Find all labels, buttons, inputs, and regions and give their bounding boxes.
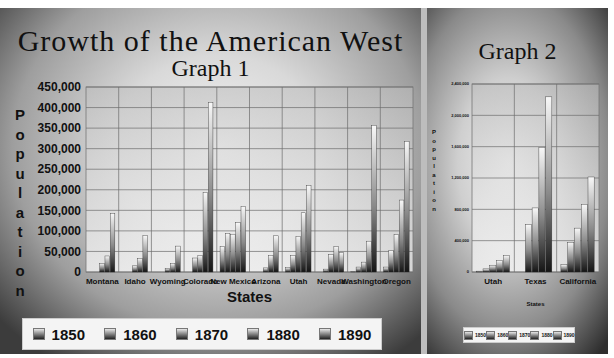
bar xyxy=(306,185,311,272)
bar xyxy=(110,213,115,272)
y-tick-label: 50,000 xyxy=(44,245,81,259)
x-category-label: Washington xyxy=(341,277,387,286)
y-tick-label: 1,600,000 xyxy=(451,144,470,149)
bar xyxy=(339,253,344,272)
legend-item: 1890 xyxy=(319,326,371,343)
legend-swatch-icon xyxy=(553,331,562,340)
bar xyxy=(138,258,143,272)
legend-item: 1860 xyxy=(104,326,156,343)
y-axis-title-letter: a xyxy=(432,172,436,178)
bar xyxy=(170,263,175,272)
y-axis-title-letter: l xyxy=(18,184,22,201)
y-axis-title-letter: p xyxy=(15,145,24,162)
legend-item: 1860 xyxy=(486,331,508,340)
bar xyxy=(389,251,394,272)
bar xyxy=(220,247,225,272)
bar xyxy=(198,256,203,272)
legend-label: 1890 xyxy=(564,332,575,338)
bar xyxy=(263,268,268,272)
legend-item: 1880 xyxy=(530,331,552,340)
y-tick-label: 0 xyxy=(74,265,81,279)
y-axis-title-letter: u xyxy=(15,165,24,182)
bar xyxy=(356,267,361,272)
x-category-label: Idaho xyxy=(124,277,145,286)
graph2-legend: 18501860187018801890 xyxy=(463,327,575,343)
y-tick-label: 2,400,000 xyxy=(451,81,470,86)
y-axis-title-letter: P xyxy=(432,129,436,135)
y-axis-title-letter: o xyxy=(15,126,24,143)
bar xyxy=(301,213,306,272)
y-tick-label: 200,000 xyxy=(38,183,82,197)
x-axis-title: States xyxy=(526,301,545,307)
bar xyxy=(225,233,230,272)
x-category-label: Utah xyxy=(290,277,308,286)
legend-label: 1890 xyxy=(338,326,371,343)
legend-label: 1860 xyxy=(123,326,156,343)
x-category-label: New Mexico xyxy=(210,277,256,286)
y-axis-title-letter: t xyxy=(433,180,435,186)
bar xyxy=(476,271,482,272)
bar xyxy=(561,265,567,272)
legend-swatch-icon xyxy=(247,328,259,340)
y-axis-title-letter: l xyxy=(433,163,435,169)
legend-label: 1870 xyxy=(519,332,530,338)
y-axis-title-letter: n xyxy=(432,206,436,212)
bar xyxy=(399,200,404,272)
y-axis-title-letter: n xyxy=(15,282,24,299)
bar xyxy=(231,234,236,272)
y-axis-title-letter: t xyxy=(18,223,23,240)
bar xyxy=(490,265,496,272)
bar xyxy=(483,269,489,272)
bar xyxy=(574,228,580,272)
graph2-plot: 0400,000800,0001,200,0001,600,0002,000,0… xyxy=(427,8,608,354)
graph1-plot: 050,000100,000150,000200,000250,000300,0… xyxy=(0,8,421,354)
bar xyxy=(323,269,328,272)
bar xyxy=(285,267,290,272)
y-tick-label: 2,000,000 xyxy=(451,113,470,118)
legend-swatch-icon xyxy=(464,331,473,340)
legend-item: 1850 xyxy=(33,326,85,343)
bar xyxy=(367,241,372,272)
legend-item: 1870 xyxy=(508,331,530,340)
bar xyxy=(100,263,105,272)
bar xyxy=(497,261,503,272)
y-axis-title-letter: o xyxy=(432,197,436,203)
bar xyxy=(503,255,509,272)
bar xyxy=(176,246,181,272)
y-tick-label: 1,200,000 xyxy=(451,175,470,180)
bar xyxy=(296,236,301,272)
bar xyxy=(394,235,399,272)
y-tick-label: 350,000 xyxy=(38,121,82,135)
legend-swatch-icon xyxy=(508,331,517,340)
bar xyxy=(532,208,538,272)
bar xyxy=(143,235,148,272)
legend-swatch-icon xyxy=(319,328,331,340)
y-axis-title-letter: o xyxy=(432,138,436,144)
x-category-label: Arizona xyxy=(251,277,281,286)
legend-label: 1870 xyxy=(195,326,228,343)
y-tick-label: 800,000 xyxy=(455,207,470,212)
y-tick-label: 150,000 xyxy=(38,204,82,218)
graph1-legend: 18501860187018801890 xyxy=(22,318,382,350)
bar xyxy=(361,262,366,272)
graph1-panel: Growth of the American West Graph 1 050,… xyxy=(0,8,421,354)
y-tick-label: 400,000 xyxy=(455,238,470,243)
bar xyxy=(132,266,137,272)
legend-swatch-icon xyxy=(530,331,539,340)
bar xyxy=(329,255,334,272)
legend-label: 1880 xyxy=(541,332,552,338)
graph2-panel: Graph 2 0400,000800,0001,200,0001,600,00… xyxy=(427,8,608,354)
bar xyxy=(334,247,339,272)
bar xyxy=(384,267,389,272)
bar xyxy=(274,236,279,272)
legend-swatch-icon xyxy=(176,328,188,340)
bar xyxy=(546,97,552,272)
bar xyxy=(372,125,377,272)
bar xyxy=(165,268,170,272)
y-tick-label: 100,000 xyxy=(38,224,82,238)
y-axis-title-letter: i xyxy=(433,189,435,195)
bar xyxy=(268,256,273,272)
y-axis-title-letter: i xyxy=(18,243,22,260)
y-axis-title-letter: p xyxy=(432,146,436,152)
x-axis-title: States xyxy=(227,288,272,305)
